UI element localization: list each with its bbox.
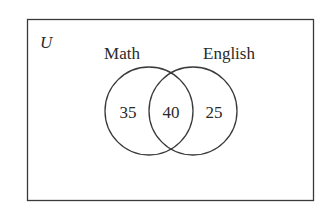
intersection-value: 40 <box>163 103 180 122</box>
english-only-value: 25 <box>206 103 223 122</box>
english-label: English <box>203 44 255 63</box>
math-only-value: 35 <box>120 103 137 122</box>
universe-label: U <box>40 33 54 52</box>
venn-diagram: U Math English 35 40 25 <box>0 0 328 208</box>
math-label: Math <box>104 44 140 63</box>
